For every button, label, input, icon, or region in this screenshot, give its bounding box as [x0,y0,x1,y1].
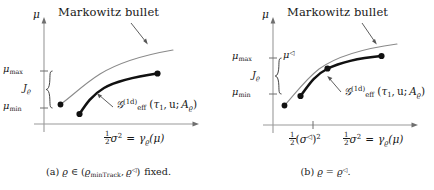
title-pointer-arrow-b [362,23,377,45]
efficient-left-dot-b [297,93,303,99]
A-base: A [409,85,417,97]
gamma-arg: (μ) [149,132,164,144]
panel-a-title: Markowitz bullet [58,7,159,19]
brace-label-J: Jϱ [252,70,260,80]
g-sub: eff [365,91,374,99]
u-symbol: u [397,85,404,97]
y-axis-symbol: μ [262,9,269,20]
panel-b-title: Markowitz bullet [287,7,388,19]
comma-1: , [164,98,167,110]
y-tick-label-mu-max: μmax [232,51,252,61]
tau-sub: 1 [159,104,163,112]
g-sup: (1d) [351,85,365,93]
x-axis-arrowhead [412,123,419,128]
caption-a-row: (a)ϱ∈(ϱminTrack,ϱ◁)fixed. [0,160,217,179]
markowitz-bullet-curve-a [61,50,173,104]
tau-sub: 1 [387,91,391,99]
caption-tag: (b) [301,166,315,177]
mu-min-sub: min [9,105,21,113]
g-sub: eff [137,104,146,112]
J-sub: ϱ [256,74,260,82]
x-axis-arrowhead [193,122,200,127]
A-sub: ϱ [417,91,421,99]
in-symbol-icon: ∈ [71,166,78,177]
x-axis-label-a: 1 2 σ2=γϱ(μ) [104,130,164,146]
u-symbol: u [169,98,176,110]
semicolon: ; [404,85,408,97]
brace-J-a [46,71,52,108]
sigma-base: σ [111,132,118,144]
y-axis-symbol: μ [33,9,40,20]
figure-two-panel-markowitz: μ Markowitz bullet μmax μmin Jϱ 𝒢(1d)eff… [0,0,434,190]
sharp-symbol-icon: ◁ [307,133,312,141]
brace-J-b [275,58,281,94]
script-G-icon: 𝒢 [344,85,351,97]
gamma-sub: ϱ [384,139,388,147]
g-sup: (1d) [123,98,137,106]
caption-varrho: ϱ [62,166,68,177]
bullet-endpoint-dot-b [282,103,288,109]
caption-comma: , [121,166,124,177]
efficient-right-dot-a [154,70,160,76]
caption-suffix: fixed. [144,166,171,177]
axes-group-a [34,17,199,132]
mu-max-sub: max [9,68,23,76]
y-tick-label-mu-max: μmax [3,64,23,74]
inner-label-mu-sharp: μ◁ [283,50,294,60]
caption-b-row: (b)ϱ=ϱ◁. [217,160,434,179]
y-axis-arrowhead [42,17,47,24]
panel-a: μ Markowitz bullet μmax μmin Jϱ 𝒢(1d)eff… [0,0,217,190]
caption-period: . [347,166,350,177]
equals-sign: = [126,132,135,144]
sigma-sup: 2 [357,133,361,141]
J-sub: ϱ [27,87,31,95]
y-axis-arrowhead [271,17,276,24]
curve-label-pointer-arrow-a [97,93,113,107]
mu-max-sub: max [238,55,252,63]
args-close: ) [193,98,197,110]
curve-label-pointer-arrow-b [327,76,341,92]
equals-sign: = [365,133,374,145]
sharp-symbol-icon: ◁ [343,166,348,173]
axes-group-b [263,17,418,133]
paren-sup: 2 [316,133,320,141]
sigma-base: σ [300,133,307,145]
title-pointer-arrow-a [131,23,148,45]
caption-varrho: ϱ [317,166,323,177]
A-sub: ϱ [189,104,193,112]
sigma-base: σ [350,133,357,145]
script-G-icon: 𝒢 [116,98,123,110]
brace-label-J: Jϱ [23,83,31,93]
y-tick-label-mu-min: μmin [232,87,251,97]
caption-a: (a)ϱ∈(ϱminTrack,ϱ◁)fixed. [46,167,171,177]
comma-1: , [392,85,395,97]
caption-b: (b)ϱ=ϱ◁. [301,167,351,177]
equals-sign: = [326,166,334,177]
arg2-base: ϱ [126,166,132,177]
rhs-base: ϱ [337,166,343,177]
gamma-sub: ϱ [145,138,149,146]
arg2-sup: ◁ [132,166,137,173]
args-close: ) [421,85,425,97]
y-tick-label-mu-min: μmin [3,101,22,111]
sigma-sup: 2 [118,132,122,140]
A-base: A [181,98,189,110]
x-axis-label-b: 1 2 σ2=γϱ(μ) [343,131,403,147]
gamma-arg: (μ) [388,133,403,145]
curve-label-a: 𝒢(1d)eff(τ1,u;Aϱ) [116,99,197,110]
sharp-symbol-icon: ◁ [289,49,294,57]
bullet-endpoint-dot-a [58,102,64,108]
paren-close: ) [137,166,141,177]
caption-tag: (a) [46,166,59,177]
efficient-left-dot-a [76,111,82,117]
mu-min-sub: min [238,91,250,99]
efficient-right-dot-b [378,53,384,59]
curve-label-b: 𝒢(1d)eff(τ1,u;Aϱ) [344,86,425,97]
arg1-sub: minTrack [90,171,121,178]
semicolon: ; [176,98,180,110]
x-tick-label-sharp: 1 2 (σ◁)2 [289,131,321,147]
panel-b: μ Markowitz bullet μmax μmin μ◁ Jϱ 𝒢(1d)… [217,0,434,190]
tangency-dot-b [324,65,330,71]
